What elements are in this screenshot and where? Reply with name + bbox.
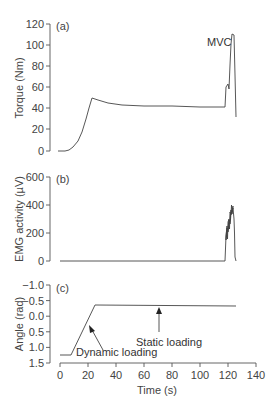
figure: 120 100 80 60 40 20 0 Torque (Nm) (a) MV… xyxy=(0,0,278,408)
panel-c-angle: −1.0 −0.5 0.0 0.5 1.0 1.5 Angle (rad) (c… xyxy=(13,279,265,396)
tick-label: −0.5 xyxy=(22,295,44,307)
tick-label: 100 xyxy=(191,369,209,381)
y-axis-title-emg: EMG activity (µV) xyxy=(13,176,25,262)
tick-label: 60 xyxy=(32,81,44,93)
y-ticks-emg xyxy=(46,177,50,261)
tick-label: 0 xyxy=(38,255,44,267)
y-ticks-angle xyxy=(46,285,50,363)
panel-a-torque: 120 100 80 60 40 20 0 Torque (Nm) (a) MV… xyxy=(13,18,236,157)
emg-trace xyxy=(60,205,236,261)
arrowhead-icon xyxy=(156,307,162,314)
tick-label: 100 xyxy=(26,39,44,51)
arrowhead-icon xyxy=(89,325,95,333)
tick-label: 120 xyxy=(26,18,44,30)
static-loading-annotation: Static loading xyxy=(136,307,202,348)
emg-burst-detail xyxy=(226,206,233,240)
y-ticks-torque xyxy=(46,24,50,151)
tick-label: 80 xyxy=(166,369,178,381)
y-axis-title-torque: Torque (Nm) xyxy=(13,57,25,118)
tick-label: 120 xyxy=(219,369,237,381)
tick-label: 200 xyxy=(26,227,44,239)
tick-label: 400 xyxy=(26,199,44,211)
static-loading-label: Static loading xyxy=(136,336,202,348)
tick-label: 0.5 xyxy=(29,326,44,338)
panel-b-emg: 600 400 200 0 EMG activity (µV) (b) xyxy=(13,171,236,267)
tick-label: 1.5 xyxy=(29,357,44,369)
x-axis-title-time: Time (s) xyxy=(137,384,177,396)
mvc-annotation: MVC xyxy=(207,36,232,48)
tick-label: 140 xyxy=(247,369,265,381)
tick-label: −1.0 xyxy=(22,279,44,291)
tick-label: 40 xyxy=(110,369,122,381)
tick-label: 40 xyxy=(32,102,44,114)
tick-label: 20 xyxy=(32,123,44,135)
y-axis-title-angle: Angle (rad) xyxy=(13,297,25,351)
tick-label: 1.0 xyxy=(29,341,44,353)
tick-label: 60 xyxy=(138,369,150,381)
tick-label: 0.0 xyxy=(29,310,44,322)
panel-label-c: (c) xyxy=(56,282,69,294)
tick-label: 20 xyxy=(82,369,94,381)
panel-label-b: (b) xyxy=(56,173,69,185)
torque-trace xyxy=(58,34,236,151)
panel-label-a: (a) xyxy=(56,20,69,32)
tick-label: 0 xyxy=(57,369,63,381)
tick-label: 600 xyxy=(26,171,44,183)
x-ticks-time xyxy=(60,363,256,367)
tick-label: 80 xyxy=(32,60,44,72)
tick-label: 0 xyxy=(38,145,44,157)
